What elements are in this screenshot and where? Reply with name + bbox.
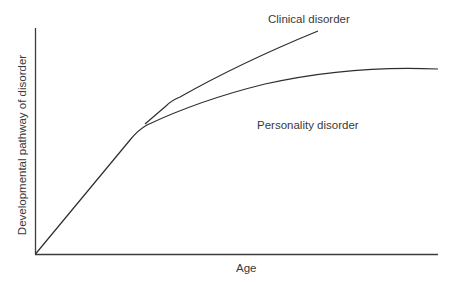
clinical-disorder-label: Clinical disorder (268, 13, 350, 25)
x-axis-label: Age (236, 262, 256, 274)
chart-canvas (0, 0, 454, 294)
personality-disorder-label: Personality disorder (257, 119, 359, 131)
clinical-disorder-line (145, 31, 318, 124)
y-axis-label: Developmental pathway of disorder (16, 55, 28, 235)
personality-disorder-line (36, 68, 439, 254)
